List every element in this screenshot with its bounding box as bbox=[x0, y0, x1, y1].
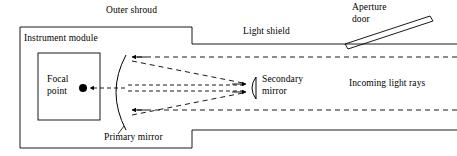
light-shield-label: Light shield bbox=[243, 26, 290, 37]
aperture-door-label-line2: door bbox=[352, 14, 370, 25]
focal-point-dot bbox=[79, 84, 87, 92]
primary-mirror-label: Primary mirror bbox=[104, 132, 163, 143]
secondary-mirror-shape bbox=[252, 77, 256, 99]
secondary-mirror-label-line2: mirror bbox=[262, 86, 287, 97]
incoming-light-rays-label: Incoming light rays bbox=[349, 78, 425, 89]
focal-point-label-line1: Focal bbox=[47, 74, 69, 85]
reflected-ray-lower bbox=[132, 93, 243, 115]
primary-mirror-arc bbox=[116, 55, 126, 130]
instrument-module-label: Instrument module bbox=[24, 33, 98, 44]
telescope-diagram: Outer shroud Instrument module Focal poi… bbox=[0, 0, 457, 156]
aperture-door-label-line1: Aperture bbox=[352, 2, 387, 13]
outer-shroud-label: Outer shroud bbox=[106, 5, 157, 16]
focal-point-label-line2: point bbox=[47, 86, 67, 97]
reflected-ray-upper bbox=[132, 61, 243, 83]
secondary-mirror-label-line1: Secondary bbox=[262, 74, 303, 85]
